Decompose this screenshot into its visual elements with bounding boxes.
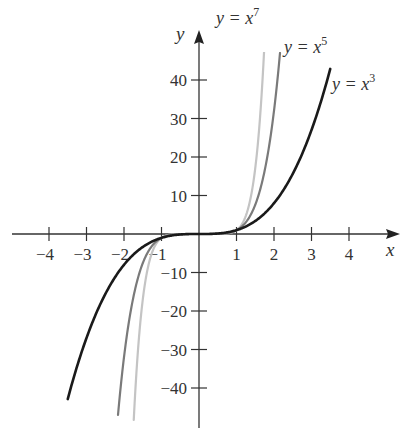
x-tick-label: 1: [232, 245, 241, 264]
label-x5-exp: 5: [321, 34, 327, 48]
x-tick-label: 3: [307, 245, 316, 264]
y-axis-label: y: [174, 23, 185, 44]
y-tick-label: 10: [170, 187, 187, 206]
x-axis-arrow-icon: [386, 229, 400, 239]
y-tick-label: −20: [160, 302, 187, 321]
power-functions-chart: −4−3−2−11234 40302010−10−20−30−40 x y y …: [0, 0, 418, 440]
y-tick-label: −30: [160, 341, 187, 360]
label-x5-base: y = x: [282, 37, 321, 57]
label-x7-exp: 7: [253, 5, 259, 19]
y-tick-label: 30: [170, 110, 187, 129]
x-axis-label: x: [385, 239, 395, 260]
label-x3-exp: 3: [369, 71, 375, 85]
x-tick-label: 2: [270, 245, 279, 264]
x-tick-label: −4: [36, 245, 55, 264]
x-ticks: −4−3−2−11234: [36, 227, 354, 264]
label-x3-base: y = x: [330, 74, 369, 94]
x-tick-label: 4: [345, 245, 354, 264]
y-tick-label: 20: [170, 148, 187, 167]
y-tick-label: −40: [160, 379, 187, 398]
y-axis-arrow-icon: [194, 30, 204, 44]
label-x5: y = x5: [282, 34, 327, 57]
label-x7: y = x7: [214, 5, 259, 28]
label-x3: y = x3: [330, 71, 375, 94]
y-tick-label: −10: [160, 264, 187, 283]
label-x7-base: y = x: [214, 8, 253, 28]
x-tick-label: −3: [73, 245, 91, 264]
y-tick-label: 40: [170, 71, 187, 90]
